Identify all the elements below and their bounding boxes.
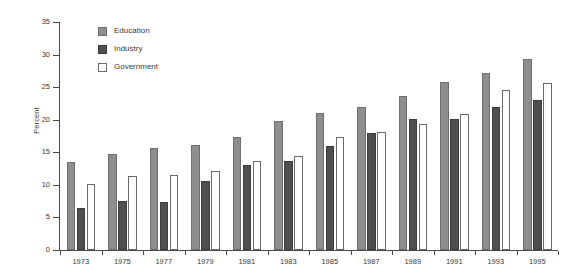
- x-axis-tick: [143, 251, 144, 255]
- y-axis-tick-label: 20: [22, 116, 50, 124]
- x-axis-tick-label: 1995: [517, 258, 557, 266]
- bar-group-1989: [399, 22, 428, 250]
- bar-education-1989[interactable]: [399, 96, 408, 250]
- bar-industry-1973[interactable]: [77, 208, 86, 250]
- bar-government-1989[interactable]: [419, 124, 428, 250]
- legend-item-industry[interactable]: Industry: [98, 40, 158, 58]
- bar-industry-1985[interactable]: [326, 146, 335, 250]
- y-axis-tick-label: 10: [22, 181, 50, 189]
- bar-education-1977[interactable]: [150, 148, 159, 250]
- bar-education-1991[interactable]: [440, 82, 449, 250]
- bar-education-1975[interactable]: [108, 154, 117, 250]
- bar-government-1975[interactable]: [128, 176, 137, 250]
- x-axis-tick: [60, 251, 61, 255]
- x-axis-tick-label: 1975: [102, 258, 142, 266]
- bar-group-1991: [440, 22, 469, 250]
- grouped-bar-chart: Percent 05101520253035 19731975197719791…: [0, 0, 570, 280]
- x-axis-tick: [475, 251, 476, 255]
- y-axis-tick: [53, 217, 60, 218]
- legend-swatch-government-icon: [98, 63, 107, 72]
- x-axis-tick-label: 1979: [185, 258, 225, 266]
- bar-industry-1989[interactable]: [409, 119, 418, 250]
- legend-label: Government: [114, 63, 158, 71]
- x-axis-tick-label: 1989: [393, 258, 433, 266]
- legend-item-education[interactable]: Education: [98, 22, 158, 40]
- y-axis-tick: [53, 87, 60, 88]
- y-axis-tick-label: 25: [22, 83, 50, 91]
- bar-industry-1987[interactable]: [367, 133, 376, 250]
- bar-government-1981[interactable]: [253, 161, 262, 250]
- bar-group-1987: [357, 22, 386, 250]
- bar-education-1983[interactable]: [274, 121, 283, 250]
- bar-government-1983[interactable]: [294, 156, 303, 250]
- x-axis-tick-label: 1985: [310, 258, 350, 266]
- legend-swatch-education-icon: [98, 27, 107, 36]
- legend-item-government[interactable]: Government: [98, 58, 158, 76]
- bar-government-1985[interactable]: [336, 137, 345, 250]
- bar-industry-1993[interactable]: [492, 107, 501, 250]
- bar-government-1993[interactable]: [502, 90, 511, 250]
- legend-label: Industry: [114, 45, 142, 53]
- x-axis-tick-label: 1987: [351, 258, 391, 266]
- y-axis-tick: [53, 120, 60, 121]
- y-axis-tick-label: 5: [22, 213, 50, 221]
- bar-government-1973[interactable]: [87, 184, 96, 250]
- x-axis-tick-label: 1973: [61, 258, 101, 266]
- y-axis-tick-label: 0: [22, 246, 50, 254]
- y-axis-tick: [53, 185, 60, 186]
- legend-label: Education: [114, 27, 150, 35]
- bar-group-1973: [67, 22, 96, 250]
- x-axis-tick: [351, 251, 352, 255]
- y-axis-tick-label: 15: [22, 148, 50, 156]
- y-axis-tick-label: 35: [22, 18, 50, 26]
- x-axis-tick: [309, 251, 310, 255]
- y-axis-tick-label: 30: [22, 51, 50, 59]
- bar-education-1985[interactable]: [316, 113, 325, 250]
- chart-legend: EducationIndustryGovernment: [98, 22, 158, 76]
- bar-group-1983: [274, 22, 303, 250]
- bar-group-1981: [233, 22, 262, 250]
- bar-education-1979[interactable]: [191, 145, 200, 250]
- bar-industry-1995[interactable]: [533, 100, 542, 250]
- bar-education-1987[interactable]: [357, 107, 366, 250]
- x-axis-tick: [102, 251, 103, 255]
- bar-government-1995[interactable]: [543, 83, 552, 250]
- x-axis-tick: [517, 251, 518, 255]
- x-axis-tick: [268, 251, 269, 255]
- bar-group-1979: [191, 22, 220, 250]
- x-axis-tick-label: 1981: [227, 258, 267, 266]
- bar-education-1993[interactable]: [482, 73, 491, 250]
- bar-industry-1975[interactable]: [118, 201, 127, 251]
- bar-industry-1983[interactable]: [284, 161, 293, 250]
- bar-education-1995[interactable]: [523, 59, 532, 250]
- y-axis-tick: [53, 22, 60, 23]
- bar-group-1995: [523, 22, 552, 250]
- x-axis-tick-label: 1991: [434, 258, 474, 266]
- bar-education-1981[interactable]: [233, 137, 242, 250]
- x-axis-tick: [392, 251, 393, 255]
- bar-group-1985: [316, 22, 345, 250]
- bar-industry-1991[interactable]: [450, 119, 459, 250]
- bar-education-1973[interactable]: [67, 162, 76, 250]
- bar-industry-1977[interactable]: [160, 202, 169, 250]
- x-axis-tick-label: 1993: [476, 258, 516, 266]
- y-axis-tick: [53, 55, 60, 56]
- x-axis-tick: [226, 251, 227, 255]
- bar-government-1979[interactable]: [211, 171, 220, 250]
- bar-government-1987[interactable]: [377, 132, 386, 250]
- x-axis-tick: [434, 251, 435, 255]
- legend-swatch-industry-icon: [98, 45, 107, 54]
- bar-government-1977[interactable]: [170, 175, 179, 250]
- x-axis-tick: [558, 251, 559, 255]
- y-axis-tick: [53, 152, 60, 153]
- bar-industry-1981[interactable]: [243, 165, 252, 250]
- bar-group-1993: [482, 22, 511, 250]
- x-axis-tick-label: 1983: [268, 258, 308, 266]
- x-axis-tick-label: 1977: [144, 258, 184, 266]
- bar-industry-1979[interactable]: [201, 181, 210, 250]
- x-axis-tick: [185, 251, 186, 255]
- bar-government-1991[interactable]: [460, 114, 469, 250]
